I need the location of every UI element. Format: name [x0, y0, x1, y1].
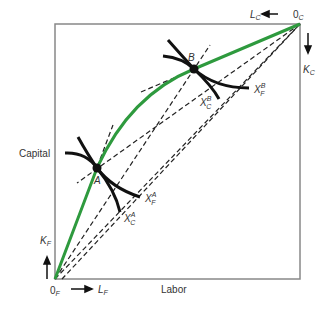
- isoquant-XC-A-sup: A: [130, 211, 136, 218]
- capital-cloth-label: KC: [303, 64, 316, 76]
- edgeworth-box-diagram: Capital Labor 0C LC KC 0F LF KF A B XAF …: [0, 0, 334, 312]
- isoquant-XC-B-sub: C: [206, 103, 212, 110]
- labor-cloth-sub: C: [256, 14, 262, 21]
- arrow-LC-head-icon: [262, 11, 269, 17]
- isoquant-XF-A-sub: F: [151, 199, 156, 206]
- diagonal-0F-to-0C: [55, 24, 300, 279]
- point-B-label: B: [188, 52, 195, 63]
- labor-food-sub: F: [104, 289, 109, 296]
- point-A-marker: [93, 164, 102, 173]
- capital-axis-label: Capital: [19, 148, 50, 159]
- point-B-marker: [190, 65, 199, 74]
- origin-cloth-label: 0C: [293, 9, 305, 21]
- origin-food-label: 0F: [50, 285, 61, 297]
- isoquant-XC-A-label: XAC: [123, 211, 136, 226]
- capital-cloth-sub: C: [310, 69, 316, 76]
- isoquant-XF-A-label: XAF: [144, 191, 157, 206]
- ray-0C-to-A: [77, 24, 300, 183]
- origin-cloth-sub: C: [299, 14, 305, 21]
- arrow-LF-head-icon: [85, 286, 92, 292]
- capital-food-label: KF: [40, 235, 52, 247]
- isoquant-XF-B-sub: F: [260, 90, 265, 97]
- isoquant-XF-B-sup: B: [261, 82, 266, 89]
- origin-food-sub: F: [56, 290, 61, 297]
- ray-0F-to-B: [55, 45, 210, 279]
- labor-axis-label: Labor: [161, 284, 187, 295]
- isoquant-XC-B-label: XBC: [199, 95, 212, 110]
- arrow-KF-head-icon: [44, 257, 50, 264]
- point-A-label: A: [93, 175, 101, 186]
- factor-ratio-rays: [55, 24, 300, 279]
- isoquant-XC-B-sup: B: [207, 95, 212, 102]
- labor-cloth-label: LC: [250, 9, 262, 21]
- isoquant-XC-A-sub: C: [130, 219, 136, 226]
- ray-0C-steep: [62, 24, 300, 279]
- isoquant-XF-A-sup: A: [151, 191, 157, 198]
- labor-food-label: LF: [98, 284, 109, 296]
- capital-food-sub: F: [47, 240, 52, 247]
- isoquant-XF-B-label: XBF: [253, 82, 266, 97]
- arrow-KC-head-icon: [305, 46, 311, 53]
